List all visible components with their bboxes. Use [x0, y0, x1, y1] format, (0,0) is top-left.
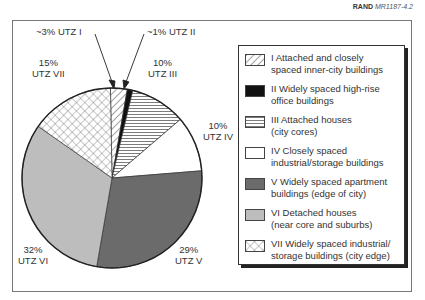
- legend-item-utz-iii: III Attached houses(city cores): [245, 114, 403, 138]
- swatch-crosshatch-icon: [245, 240, 265, 252]
- swatch-horizontal-icon: [245, 116, 265, 128]
- swatch-light-gray-icon: [245, 209, 265, 221]
- pie-slices: [22, 88, 202, 268]
- label-utz-ii: ~1% UTZ II: [147, 26, 195, 37]
- arrow-head-utz-ii: [123, 80, 129, 89]
- legend: I Attached and closelyspaced inner-city …: [238, 45, 405, 265]
- legend-item-utz-vii: VII Widely spaced industrial/storage bui…: [245, 238, 403, 262]
- label-utz-vii: 15%UTZ VII: [32, 57, 65, 79]
- legend-item-utz-i: I Attached and closelyspaced inner-city …: [245, 52, 403, 76]
- label-utz-i: ~3% UTZ I: [36, 26, 82, 37]
- arrow-utz-i: [95, 34, 112, 82]
- label-utz-vi: 32%UTZ VI: [18, 244, 48, 266]
- arrow-utz-ii: [126, 34, 144, 82]
- swatch-diagonal-icon: [245, 54, 265, 66]
- label-utz-iv: 10%UTZ IV: [203, 120, 233, 142]
- swatch-dark-gray-icon: [245, 178, 265, 190]
- label-utz-v: 29%UTZ V: [175, 244, 202, 266]
- legend-item-utz-vi: VI Detached houses(near core and suburbs…: [245, 207, 403, 231]
- label-utz-iii: 10%UTZ III: [148, 57, 177, 79]
- legend-item-utz-iv: IV Closely spacedindustrial/storage buil…: [245, 145, 403, 169]
- pointer-arrows: [95, 34, 144, 89]
- swatch-white-icon: [245, 147, 265, 159]
- legend-item-utz-ii: II Widely spaced high-riseoffice buildin…: [245, 83, 403, 107]
- legend-item-utz-v: V Widely spaced apartmentbuildings (edge…: [245, 176, 403, 200]
- swatch-black-icon: [245, 85, 265, 97]
